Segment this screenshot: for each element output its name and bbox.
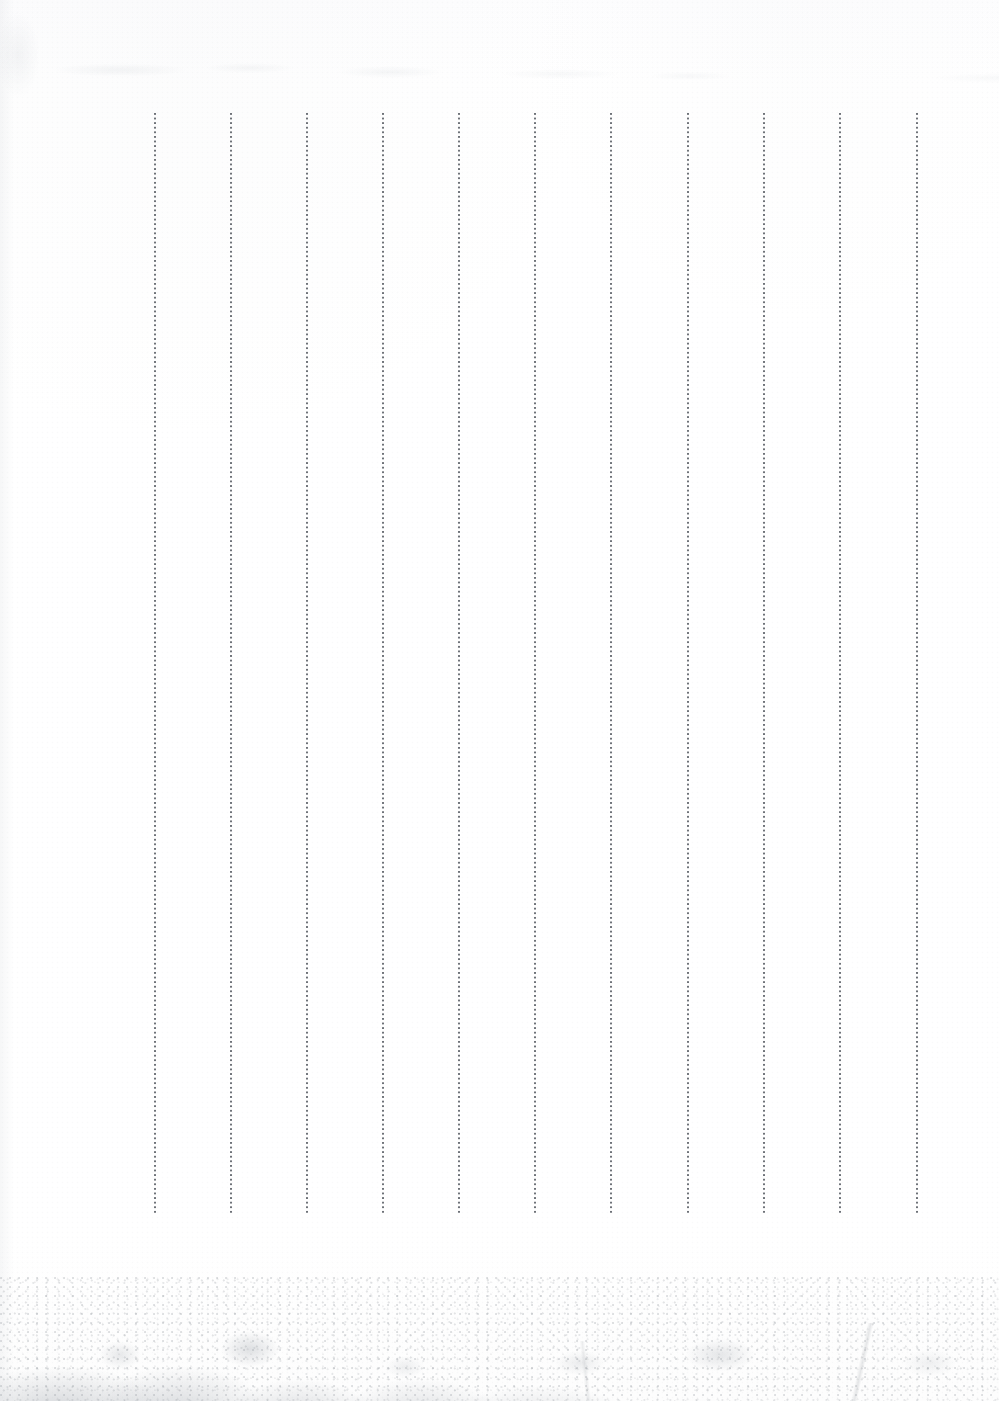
vertical-ruling-grid [0, 113, 999, 1215]
ruling-line-4 [382, 113, 384, 1215]
scanned-page [0, 0, 999, 1401]
ruling-line-8 [687, 113, 689, 1215]
ruling-line-11 [916, 113, 918, 1215]
ruling-line-5 [458, 113, 460, 1215]
ruling-line-7 [610, 113, 612, 1215]
ruling-line-9 [763, 113, 765, 1215]
ruling-line-2 [230, 113, 232, 1215]
ruling-line-10 [839, 113, 841, 1215]
top-blemish-marks [0, 0, 999, 108]
ruling-line-6 [534, 113, 536, 1215]
ruling-line-1 [154, 113, 156, 1215]
ruling-line-3 [306, 113, 308, 1215]
